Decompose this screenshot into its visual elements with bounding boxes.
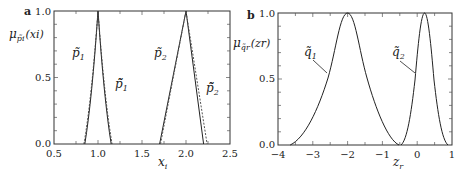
label-p1: p̃1 xyxy=(72,46,85,62)
panel-b: −4 −3 −2 −1 0 1 0.0 0.5 1.0 b μq̃r(zr) z… xyxy=(233,8,455,171)
curve-pp2 xyxy=(161,11,208,144)
b-ytick-2: 1.0 xyxy=(259,8,275,19)
a-ytick-0: 0.0 xyxy=(35,138,51,149)
b-xtick-5: 1 xyxy=(449,149,455,160)
panel-a-xlabel: xi xyxy=(158,155,168,171)
leader-q2 xyxy=(400,61,415,73)
curve-p2 xyxy=(160,11,204,144)
label-pp1: p̃̃1 xyxy=(115,77,128,93)
a-xtick-1: 1.0 xyxy=(90,148,106,159)
panel-b-ylabel: μq̃r(zr) xyxy=(233,36,270,52)
panel-b-axes-frame xyxy=(278,13,452,145)
b-xtick-3: −1 xyxy=(375,149,390,160)
panel-b-label: b xyxy=(247,9,255,22)
b-ytick-1: 0.5 xyxy=(259,73,275,84)
figure: 0.5 1.0 1.5 2.0 2.5 0.0 0.5 1.0 a μp̃i(x… xyxy=(0,0,467,172)
panel-b-x-ticks xyxy=(295,13,434,145)
a-ytick-1: 0.5 xyxy=(35,72,51,83)
panel-b-y-ticks xyxy=(278,26,452,132)
label-q1: q̃1 xyxy=(304,45,317,61)
a-xtick-4: 2.5 xyxy=(222,148,238,159)
label-pp2: p̃̃2 xyxy=(206,81,219,97)
b-xtick-4: 0 xyxy=(414,149,420,160)
panel-b-xlabel: zr xyxy=(392,155,404,171)
curve-p1 xyxy=(85,11,111,144)
b-ytick-0: 0.0 xyxy=(259,139,275,150)
a-ytick-2: 1.0 xyxy=(35,6,51,17)
b-xtick-0: −4 xyxy=(271,149,286,160)
label-p2: p̃2 xyxy=(154,46,167,62)
leader-q1 xyxy=(313,60,327,73)
b-xtick-1: −3 xyxy=(305,149,320,160)
panel-a: 0.5 1.0 1.5 2.0 2.5 0.0 0.5 1.0 a μp̃i(x… xyxy=(9,5,238,171)
curve-q1 xyxy=(290,13,399,145)
a-xtick-0: 0.5 xyxy=(46,148,62,159)
panel-a-label: a xyxy=(24,5,31,18)
panel-a-ylabel: μp̃i(xi) xyxy=(9,27,44,43)
curve-q2 xyxy=(401,13,448,145)
a-xtick-2: 1.5 xyxy=(134,148,150,159)
panel-a-y-ticks xyxy=(54,24,230,130)
label-q2: q̃2 xyxy=(392,45,405,61)
b-xtick-2: −2 xyxy=(340,149,355,160)
a-xtick-3: 2.0 xyxy=(178,148,194,159)
